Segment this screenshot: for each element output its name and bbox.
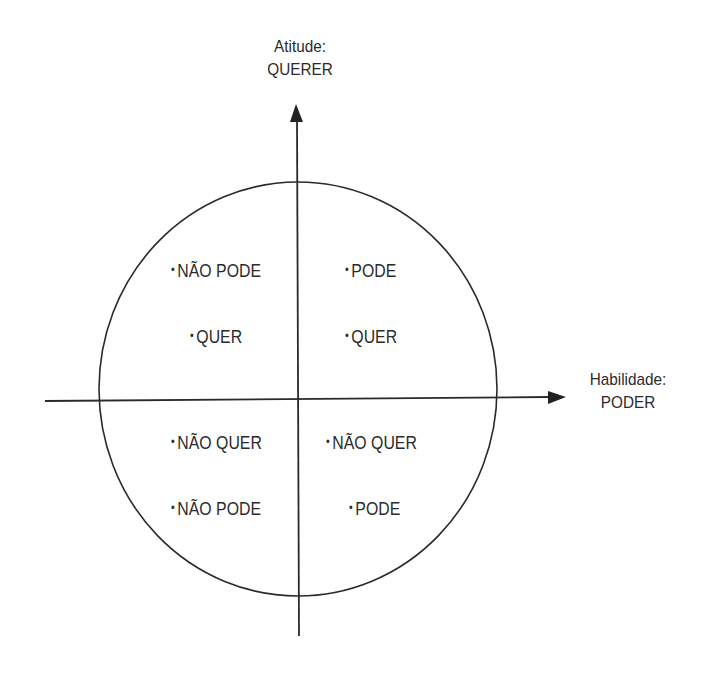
label-text: NÃO PODE: [177, 261, 261, 281]
quadrant-bottom-left-line2: •NÃO PODE: [171, 497, 261, 520]
label-text: PODE: [351, 261, 396, 281]
bullet-icon: •: [326, 435, 330, 449]
y-axis-label-line2: QUERER: [255, 58, 345, 81]
bullet-icon: •: [345, 329, 349, 343]
quadrant-bottom-right-line2: •PODE: [349, 497, 400, 520]
label-text: NÃO PODE: [177, 499, 261, 519]
label-text: QUER: [196, 327, 242, 347]
quadrant-bottom-right-line1: •NÃO QUER: [326, 431, 417, 454]
x-axis-label: Habilidade: PODER: [574, 368, 682, 414]
bullet-icon: •: [171, 501, 175, 515]
y-axis-label: Atitude: QUERER: [255, 35, 345, 81]
bullet-icon: •: [171, 263, 175, 277]
y-axis-label-line1: Atitude:: [255, 35, 345, 58]
quadrant-top-right-line1: •PODE: [345, 259, 396, 282]
bullet-icon: •: [349, 501, 353, 515]
x-axis-label-line2: PODER: [574, 391, 682, 414]
bullet-icon: •: [171, 435, 175, 449]
label-text: NÃO QUER: [332, 433, 416, 453]
label-text: PODE: [355, 499, 400, 519]
quadrant-top-left-line2: •QUER: [190, 325, 242, 348]
bullet-icon: •: [190, 329, 194, 343]
y-axis-line: [297, 118, 299, 636]
y-axis-arrow-icon: [290, 104, 303, 122]
label-text: QUER: [351, 327, 397, 347]
label-text: NÃO QUER: [177, 433, 261, 453]
quadrant-bottom-left-line1: •NÃO QUER: [171, 431, 262, 454]
quadrant-top-left-line1: •NÃO PODE: [171, 259, 261, 282]
x-axis-label-line1: Habilidade:: [574, 368, 682, 391]
quadrant-top-right-line2: •QUER: [345, 325, 397, 348]
x-axis-arrow-icon: [548, 391, 566, 404]
bullet-icon: •: [345, 263, 349, 277]
